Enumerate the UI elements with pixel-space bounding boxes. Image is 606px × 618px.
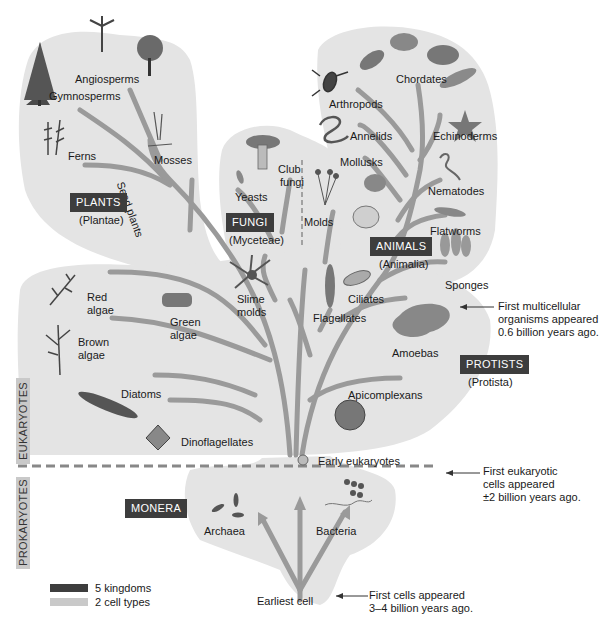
label-brown-algae-line1: Brown [78, 336, 109, 349]
kingdom-latin-animals: (Animalia) [379, 258, 429, 271]
label-annelids: Annelids [350, 130, 392, 143]
label-slime-molds-line2: molds [237, 306, 266, 319]
label-ciliates: Ciliates [348, 293, 384, 306]
label-ferns: Ferns [68, 150, 96, 163]
plants-region [19, 32, 230, 270]
label-club-fungi-line2: fungi [280, 176, 304, 189]
legend-label-cell-types: 2 cell types [95, 596, 150, 609]
bear-icon [427, 45, 459, 65]
label-club-fungi-line1: Club [278, 163, 301, 176]
label-dinoflagellates: Dinoflagellates [181, 436, 253, 449]
label-arthropods: Arthropods [329, 98, 383, 111]
kingdom-latin-protists: (Protista) [468, 376, 513, 389]
label-sponges: Sponges [445, 279, 488, 292]
label-molds: Molds [304, 216, 333, 229]
kingdom-box-plants: PLANTS [70, 193, 127, 212]
note-eukaryotic: First eukaryotic cells appeared ±2 billi… [483, 465, 581, 504]
kingdom-box-animals: ANIMALS [370, 237, 432, 256]
label-mosses: Mosses [154, 154, 192, 167]
label-diatoms: Diatoms [121, 388, 161, 401]
kingdom-latin-fungi: (Myceteae) [229, 234, 284, 247]
label-archaea: Archaea [204, 525, 245, 538]
legend-swatch-kingdoms [50, 584, 88, 592]
early-eukaryote-icon [298, 455, 308, 465]
kingdom-box-protists: PROTISTS [460, 355, 529, 374]
apicomplexan-icon [335, 400, 365, 430]
label-yeasts: Yeasts [235, 191, 268, 204]
label-nematodes: Nematodes [428, 185, 484, 198]
legend-label-kingdoms: 5 kingdoms [95, 582, 151, 595]
label-bacteria: Bacteria [316, 525, 356, 538]
note-multicellular: First multicellular organisms appeared 0… [498, 300, 599, 339]
label-green-algae-line2: algae [170, 329, 197, 342]
mouse-icon [390, 33, 418, 51]
cell-type-prokaryotes: PROKARYOTES [16, 477, 30, 569]
kingdom-latin-plants: (Plantae) [79, 214, 124, 227]
label-mollusks: Mollusks [340, 156, 383, 169]
label-early-eukaryotes: Early eukaryotes [318, 455, 400, 468]
label-green-algae-line1: Green [170, 316, 201, 329]
label-slime-molds-line1: Slime [237, 293, 265, 306]
label-amoebas: Amoebas [392, 347, 438, 360]
jellyfish-icon [353, 206, 379, 228]
label-chordates: Chordates [396, 73, 447, 86]
legend-swatch-cell-types [50, 598, 88, 606]
flagellate-icon [325, 264, 335, 308]
label-red-algae-line2: algae [87, 304, 114, 317]
label-gymnosperms: Gymnosperms [49, 90, 121, 103]
label-echinoderms: Echinoderms [433, 130, 497, 143]
kingdom-box-fungi: FUNGI [226, 213, 274, 232]
label-angiosperms: Angiosperms [75, 73, 139, 86]
snail-icon [364, 174, 386, 192]
cell-type-eukaryotes: EUKARYOTES [16, 378, 30, 464]
label-brown-algae-line2: algae [78, 349, 105, 362]
earliest-cell-icon [297, 583, 303, 586]
label-flagellates: Flagellates [313, 312, 366, 325]
label-flatworms: Flatworms [430, 225, 481, 238]
label-earliest-cell: Earliest cell [257, 595, 313, 608]
note-first-cells: First cells appeared 3–4 billion years a… [369, 589, 473, 615]
green-algae-icon [162, 293, 192, 307]
label-apicomplexans: Apicomplexans [348, 389, 423, 402]
angiosperm-tree-icon [137, 35, 163, 61]
kingdom-box-monera: MONERA [125, 499, 187, 518]
tree-of-life-diagram: Angiosperms Gymnosperms Ferns Mosses See… [0, 0, 606, 618]
label-red-algae-line1: Red [87, 291, 107, 304]
